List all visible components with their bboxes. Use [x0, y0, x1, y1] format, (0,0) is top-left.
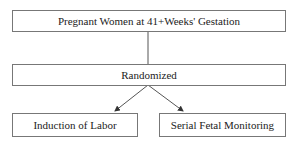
randomized-box: Randomized [12, 64, 286, 86]
population-label: Pregnant Women at 41+Weeks' Gestation [58, 15, 240, 27]
randomized-label: Randomized [121, 69, 177, 81]
induction-label: Induction of Labor [33, 119, 116, 131]
induction-box: Induction of Labor [12, 113, 138, 137]
arrow-to-monitoring [148, 85, 183, 111]
monitoring-box: Serial Fetal Monitoring [159, 113, 286, 137]
monitoring-label: Serial Fetal Monitoring [171, 119, 274, 131]
arrow-to-induction [115, 85, 148, 111]
population-box: Pregnant Women at 41+Weeks' Gestation [12, 10, 286, 32]
